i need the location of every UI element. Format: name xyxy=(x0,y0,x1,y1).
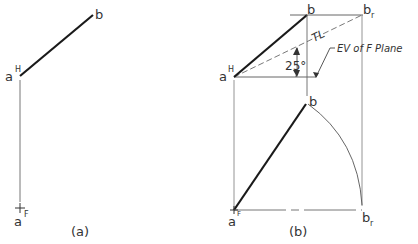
caption-b: (b) xyxy=(289,224,307,239)
line-ab-front-view xyxy=(234,104,306,210)
label-a-front: a xyxy=(228,214,236,229)
label-a-top: a xyxy=(219,69,227,84)
label-b-top: b xyxy=(95,7,103,22)
label-ev-of-f-plane: EV of F Plane xyxy=(337,43,403,54)
descriptive-geometry-diagram: a H b a F (a) a H b b r TL xyxy=(0,0,418,244)
figure-a: a H b a F (a) xyxy=(5,7,103,239)
label-a-front: a xyxy=(14,214,22,229)
label-a-top: a xyxy=(5,69,13,84)
label-b-front: b xyxy=(309,94,317,109)
ev-leader-line xyxy=(316,48,335,77)
caption-a: (a) xyxy=(71,224,89,239)
label-a-front-sub: F xyxy=(237,210,241,218)
label-angle: 25° xyxy=(285,59,306,73)
label-a-front-sub: F xyxy=(24,210,29,219)
figure-b: a H b b r TL 25° EV of F Plane b a F b r… xyxy=(219,2,403,239)
line-ab-top-view xyxy=(20,15,93,76)
label-b-top: b xyxy=(307,2,315,17)
label-true-length: TL xyxy=(310,27,327,44)
label-a-top-sup: H xyxy=(228,65,234,74)
revolution-arc xyxy=(308,104,362,205)
label-br-front-sub: r xyxy=(370,219,374,228)
label-br-top-sub: r xyxy=(371,11,375,20)
label-a-top-sup: H xyxy=(15,65,21,74)
